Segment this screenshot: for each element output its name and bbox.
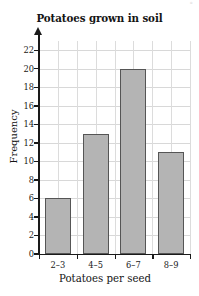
bar [120,69,146,254]
y-tick-label: 0 [4,249,34,259]
y-tick-mark [34,216,39,217]
x-axis-title: Potatoes per seed [20,273,190,284]
x-tick-label: 4–5 [76,260,116,270]
x-tick-mark [115,254,116,259]
bar-chart-figure: Potatoes grown in soil 02468101214161820… [0,0,199,296]
bar [83,134,109,254]
y-tick-mark [34,161,39,162]
y-tick-mark [34,179,39,180]
gridline-vertical [152,41,153,254]
x-tick-label: 8–9 [151,260,191,270]
y-tick-mark [34,105,39,106]
x-tick-label: 2–3 [38,260,78,270]
corner-artifact: ° [190,1,194,9]
gridline-vertical [190,41,191,254]
y-tick-label: 2 [4,230,34,240]
bar [158,152,184,254]
x-axis-line [34,254,191,256]
gridline-vertical [77,41,78,254]
y-axis-title: Frequency [8,87,19,187]
y-tick-label: 6 [4,193,34,203]
y-tick-mark [34,68,39,69]
y-tick-mark [34,235,39,236]
x-tick-mark [152,254,153,259]
y-tick-mark [34,124,39,125]
y-tick-mark [34,198,39,199]
y-tick-label: 4 [4,212,34,222]
x-tick-mark [190,254,191,259]
x-tick-mark [77,254,78,259]
gridline-vertical [115,41,116,254]
plot-area [39,41,190,254]
y-tick-mark [34,142,39,143]
y-tick-label: 22 [4,45,34,55]
bar [45,198,71,254]
x-tick-mark [39,254,40,259]
y-axis-arrow-icon [34,27,42,35]
y-tick-label: 20 [4,64,34,74]
x-tick-label: 6–7 [113,260,153,270]
y-tick-mark [34,87,39,88]
y-tick-mark [34,50,39,51]
